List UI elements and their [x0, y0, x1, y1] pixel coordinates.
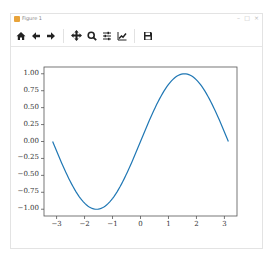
y-tick-label: −0.25 — [9, 153, 39, 161]
x-tick-label: −2 — [77, 220, 93, 228]
y-tick-label: −1.00 — [9, 204, 39, 212]
y-tick-label: 1.00 — [9, 69, 39, 77]
sine-line — [53, 74, 229, 209]
x-tick-label: 3 — [216, 220, 232, 228]
y-tick-label: −0.75 — [9, 187, 39, 195]
x-tick-label: 1 — [160, 220, 176, 228]
y-tick-label: 0.25 — [9, 120, 39, 128]
y-tick-label: 0.75 — [9, 86, 39, 94]
y-tick-label: −0.50 — [9, 170, 39, 178]
x-tick-label: 2 — [188, 220, 204, 228]
x-axis — [57, 216, 225, 219]
y-tick-label: 0.50 — [9, 103, 39, 111]
x-tick-label: −1 — [105, 220, 121, 228]
y-axis — [41, 74, 44, 209]
y-tick-label: 0.00 — [9, 137, 39, 145]
x-tick-label: −3 — [49, 220, 65, 228]
x-tick-label: 0 — [133, 220, 149, 228]
